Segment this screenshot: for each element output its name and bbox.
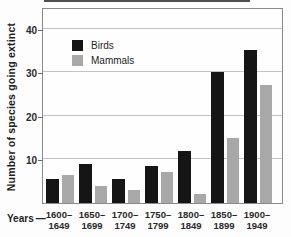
x-category-label-1900-1949: 1900– 1949 [237,209,277,231]
bar-mammals-1650-1699 [95,186,108,203]
bar-birds-1650-1699 [79,164,92,203]
gridline-40 [43,28,282,29]
legend-label-mammals: Mammals [91,55,134,66]
y-tick-mark-40 [38,30,43,31]
legend: Birds Mammals [72,38,134,68]
bar-birds-1850-1899 [211,72,224,203]
y-tick-label-20: 20 [15,111,37,122]
bar-birds-1700-1749 [112,179,125,203]
y-tick-mark-10 [38,160,43,161]
bar-birds-1600-1649 [46,179,59,203]
y-tick-label-30: 30 [15,68,37,79]
legend-item-birds: Birds [72,38,134,53]
bar-birds-1900-1949 [244,50,257,203]
legend-label-birds: Birds [91,40,114,51]
bar-mammals-1800-1849 [194,194,207,203]
y-tick-label-40: 40 [15,24,37,35]
x-axis-title: Years [7,213,34,224]
bar-mammals-1600-1649 [62,175,75,203]
legend-swatch-mammals [72,55,83,66]
y-tick-mark-30 [38,73,43,74]
bar-mammals-1700-1749 [128,190,141,203]
bar-mammals-1900-1949 [260,85,273,203]
bar-birds-1750-1799 [145,166,158,203]
y-tick-label-10: 10 [15,155,37,166]
y-tick-mark-20 [38,117,43,118]
bar-birds-1800-1849 [178,151,191,203]
plot-area: Birds Mammals [42,8,283,204]
bar-mammals-1850-1899 [227,138,240,203]
bar-mammals-1750-1799 [161,172,174,203]
legend-swatch-birds [72,40,83,51]
y-axis-title: Number of species going extinct [5,7,19,207]
extinctions-bar-chart-figure: Number of species going extinct Birds Ma… [0,0,291,237]
cropped-page-edge [44,0,250,2]
legend-item-mammals: Mammals [72,53,134,68]
